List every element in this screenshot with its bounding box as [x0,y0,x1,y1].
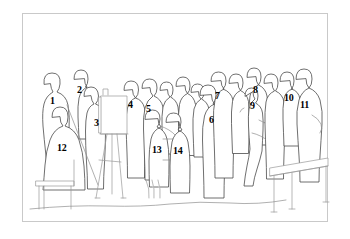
figure-label-7: 7 [215,91,220,101]
figure-label-3: 3 [94,118,99,128]
line-art-illustration [0,0,350,239]
figure-label-12: 12 [57,143,66,153]
figure-label-8: 8 [253,85,258,95]
background-figure-right [264,74,285,179]
figure-label-14: 14 [173,146,182,156]
figure-label-1: 1 [50,96,55,106]
diagram-canvas: 1 2 3 4 5 6 7 8 9 10 11 12 13 14 [0,0,350,239]
figure-label-5: 5 [146,104,151,114]
background-figures-midright [229,74,250,154]
figure-label-13: 13 [152,145,161,155]
figure-label-11: 11 [300,100,309,110]
figure-label-10: 10 [284,93,293,103]
figure-label-6: 6 [209,115,214,125]
figure-label-2: 2 [77,85,82,95]
ground-line [30,200,286,209]
figure-label-4: 4 [128,100,133,110]
figure-label-9: 9 [250,101,255,111]
